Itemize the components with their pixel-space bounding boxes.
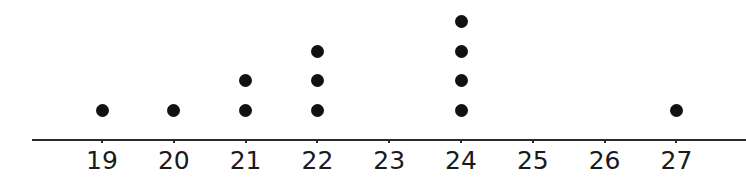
x-tick	[604, 139, 606, 143]
data-dot	[239, 104, 252, 117]
x-tick-label: 19	[77, 146, 127, 176]
x-tick-label: 21	[221, 146, 271, 176]
x-tick	[532, 139, 534, 143]
data-dot	[455, 15, 468, 28]
x-tick	[460, 139, 462, 143]
data-dot	[455, 104, 468, 117]
x-tick-label: 27	[651, 146, 701, 176]
data-dot	[311, 45, 324, 58]
data-dot	[670, 104, 683, 117]
x-tick	[316, 139, 318, 143]
x-tick-label: 22	[292, 146, 342, 176]
x-tick	[101, 139, 103, 143]
x-tick	[675, 139, 677, 143]
data-dot	[455, 45, 468, 58]
data-dot	[167, 104, 180, 117]
x-tick	[245, 139, 247, 143]
data-dot	[455, 74, 468, 87]
x-tick-label: 25	[508, 146, 558, 176]
x-tick	[173, 139, 175, 143]
x-tick-label: 26	[580, 146, 630, 176]
x-tick-label: 20	[149, 146, 199, 176]
x-tick	[388, 139, 390, 143]
x-tick-label: 24	[436, 146, 486, 176]
dot-plot: 192021222324252627	[0, 0, 746, 188]
x-tick-label: 23	[364, 146, 414, 176]
data-dot	[239, 74, 252, 87]
data-dot	[311, 74, 324, 87]
data-dot	[96, 104, 109, 117]
data-dot	[311, 104, 324, 117]
